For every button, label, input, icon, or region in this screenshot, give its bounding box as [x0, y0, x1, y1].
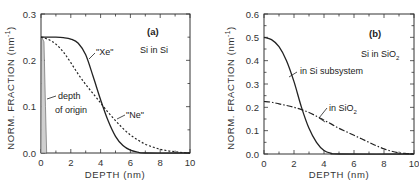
y-tick-label: 0.5 [246, 32, 259, 43]
sio2-label: in SiO2 [329, 103, 358, 115]
si-subsystem-label: in Si subsystem [300, 66, 363, 76]
xe-label: "Xe" [96, 47, 113, 57]
y-axis-label-b: NORM. FRACTION (nm-1) [224, 26, 236, 149]
depth-of-origin-label-2: of origin [55, 105, 87, 115]
plot-frame-b [264, 14, 414, 154]
chart-canvas: 02468100.00.10.20.3 (a) Si in Si "Xe" "N… [0, 0, 419, 188]
y-tick-label: 0.3 [23, 9, 36, 20]
y-tick-label: 0.0 [23, 148, 36, 159]
y-tick-label: 0.0 [246, 149, 259, 160]
x-tick-label: 6 [128, 157, 133, 168]
x-tick-label: 6 [351, 158, 356, 169]
y-tick-label: 0.2 [23, 55, 36, 66]
ticks-b: 02468100.00.10.20.30.40.50.6 [246, 9, 419, 170]
x-tick-label: 4 [98, 157, 103, 168]
y-axis-label-a: NORM. FRACTION (nm-1) [4, 26, 16, 149]
plot-frame-a [41, 14, 190, 153]
y-tick-label: 0.3 [246, 79, 259, 90]
y-tick-label: 0.2 [246, 102, 259, 113]
x-tick-label: 8 [158, 157, 163, 168]
x-tick-label: 0 [38, 157, 43, 168]
ne-label: "Ne" [126, 110, 144, 120]
y-tick-label: 0.4 [246, 55, 259, 66]
x-tick-label: 10 [185, 157, 196, 168]
figure: 02468100.00.10.20.3 (a) Si in Si "Xe" "N… [0, 0, 419, 188]
y-tick-label: 0.1 [23, 101, 36, 112]
x-axis-label-b: DEPTH (nm) [309, 169, 369, 180]
xe-leader [89, 53, 95, 59]
panel-b: 02468100.00.10.20.30.40.50.6 (b) Si in S… [224, 9, 419, 181]
panel-title-a: Si in Si [140, 45, 168, 55]
depth-of-origin-label-1: depth [58, 91, 81, 101]
ticks-a: 02468100.00.10.20.3 [23, 9, 196, 169]
x-tick-label: 10 [409, 158, 419, 169]
y-tick-label: 0.1 [246, 125, 259, 136]
ne-leader [117, 115, 125, 119]
x-tick-label: 0 [261, 158, 266, 169]
depth-leader [47, 96, 56, 99]
x-tick-label: 2 [291, 158, 296, 169]
panel-tag-b: (b) [369, 28, 381, 39]
x-tick-label: 4 [321, 158, 326, 169]
depth-of-origin-area [41, 37, 47, 153]
x-tick-label: 8 [381, 158, 386, 169]
y-tick-label: 0.6 [246, 9, 259, 20]
x-axis-label-a: DEPTH (nm) [85, 169, 145, 180]
panel-title-b: Si in SiO2 [361, 49, 400, 61]
panel-a: 02468100.00.10.20.3 (a) Si in Si "Xe" "N… [4, 9, 195, 181]
si-subsystem-leader [289, 72, 297, 77]
panel-tag-a: (a) [147, 26, 159, 37]
x-tick-label: 2 [68, 157, 73, 168]
